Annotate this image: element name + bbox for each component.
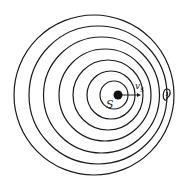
velocity-subscript: S [140,86,144,93]
wavefronts [14,15,174,175]
wavefront-circle [14,15,174,175]
wavefront-circle [29,26,167,164]
source-dot [114,91,123,100]
wavefront-circle [44,37,160,153]
wavefront-canvas [0,0,191,185]
velocity-arrowhead [137,93,141,97]
doppler-diagram: S vS [0,0,191,185]
source-label: S [106,99,114,110]
velocity-label: vS [135,82,144,93]
